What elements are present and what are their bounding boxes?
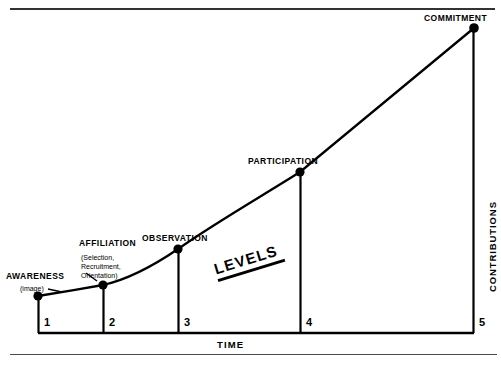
node-sublabel-affiliation-line1: (Selection,: [81, 253, 114, 262]
x-tick-2: 2: [109, 316, 115, 328]
x-tick-4: 4: [306, 316, 312, 328]
x-axis-title: TIME: [217, 339, 244, 350]
node-sublabel-affiliation-line2: Recruitment,: [81, 262, 121, 271]
y-axis-title: CONTRIBUTIONS: [487, 201, 498, 292]
node-label-observation: OBSERVATION: [142, 234, 208, 243]
node-label-awareness: AWARENESS: [6, 272, 64, 281]
x-tick-5: 5: [479, 316, 485, 328]
node-label-affiliation: AFFILIATION: [79, 239, 136, 248]
x-tick-3: 3: [184, 316, 190, 328]
node-marker-affiliation: [98, 280, 107, 289]
x-tick-1: 1: [44, 316, 50, 328]
node-sublabel-awareness: (image): [20, 285, 44, 292]
leader-line-awareness: [48, 289, 62, 292]
node-marker-awareness: [33, 291, 42, 300]
node-sublabel-affiliation-line3: Orientation): [81, 271, 118, 280]
node-marker-commitment: [469, 23, 479, 33]
node-marker-observation: [173, 244, 182, 253]
node-label-participation: PARTICIPATION: [248, 157, 318, 166]
node-label-commitment: COMMITMENT: [424, 14, 487, 23]
levels-figure: AWARENESS (image) AFFILIATION (Selection…: [0, 0, 501, 368]
chart-canvas: [0, 0, 501, 368]
node-marker-participation: [295, 167, 304, 176]
